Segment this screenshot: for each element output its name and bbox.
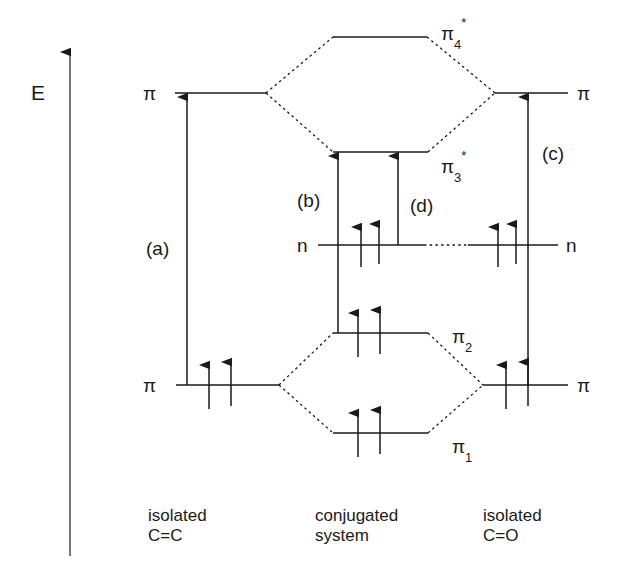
column-caption-right-line1: isolated: [483, 506, 542, 526]
column-caption-center-line2: system: [315, 526, 398, 546]
mo-energy-diagram: E π π π π n n π4* π3* π2 π1 (a) (b) (d) …: [0, 0, 619, 573]
pi3-subscript: 3: [454, 170, 461, 185]
mo-diagram-canvas: [0, 0, 619, 573]
level-label-left-pi: π: [143, 376, 156, 395]
transition-label-a: (a): [146, 239, 169, 258]
column-caption-left-line1: isolated: [148, 506, 207, 526]
pi4-star: *: [461, 15, 466, 30]
level-label-center-pi1: π1: [452, 437, 472, 460]
level-label-right-n: n: [566, 236, 577, 255]
pi1-base: π: [452, 436, 465, 457]
pi3-star: *: [461, 148, 466, 163]
level-label-right-pi-star: π: [577, 84, 590, 103]
level-label-right-pi: π: [577, 376, 590, 395]
transition-label-d: (d): [410, 196, 433, 215]
level-label-left-pi-star: π: [143, 84, 156, 103]
level-label-left-n: n: [297, 236, 308, 255]
electron-spin-arrows: [209, 224, 528, 457]
pi1-subscript: 1: [465, 450, 472, 465]
energy-level-lines: [175, 37, 568, 433]
column-caption-right: isolated C=O: [483, 506, 542, 546]
pi4-base: π: [441, 23, 454, 44]
transition-label-b: (b): [297, 191, 320, 210]
pi3-base: π: [441, 156, 454, 177]
column-caption-left: isolated C=C: [148, 506, 207, 546]
level-label-center-pi4: π4*: [441, 22, 466, 47]
pi2-base: π: [452, 326, 465, 347]
column-caption-center-line1: conjugated: [315, 506, 398, 526]
transition-label-c: (c): [542, 144, 564, 163]
level-label-center-pi2: π2: [452, 327, 472, 350]
column-caption-left-line2: C=C: [148, 526, 207, 546]
level-label-center-pi3: π3*: [441, 155, 466, 180]
pi2-subscript: 2: [465, 340, 472, 355]
column-caption-center: conjugated system: [315, 506, 398, 546]
column-caption-right-line2: C=O: [483, 526, 542, 546]
energy-axis-label: E: [31, 82, 45, 103]
pi4-subscript: 4: [454, 37, 461, 52]
